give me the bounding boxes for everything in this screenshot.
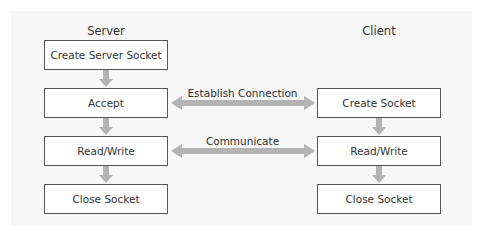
- down-arrow-icon: [371, 118, 387, 136]
- box-label: Read/Write: [77, 145, 135, 157]
- server-accept-box: Accept: [44, 88, 168, 118]
- down-arrow-icon: [371, 166, 387, 184]
- box-label: Close Socket: [72, 193, 139, 205]
- server-close-socket-box: Close Socket: [44, 184, 168, 214]
- client-read-write-box: Read/Write: [317, 136, 441, 166]
- bidirectional-arrow-icon: [170, 144, 316, 158]
- down-arrow-icon: [98, 118, 114, 136]
- client-create-socket-box: Create Socket: [317, 88, 441, 118]
- down-arrow-icon: [98, 166, 114, 184]
- box-label: Create Server Socket: [50, 49, 161, 61]
- box-label: Close Socket: [345, 193, 412, 205]
- server-read-write-box: Read/Write: [44, 136, 168, 166]
- box-label: Create Socket: [342, 97, 415, 109]
- client-close-socket-box: Close Socket: [317, 184, 441, 214]
- box-label: Read/Write: [350, 145, 408, 157]
- server-create-socket-box: Create Server Socket: [44, 40, 168, 70]
- bidirectional-arrow-icon: [170, 96, 316, 110]
- down-arrow-icon: [98, 70, 114, 88]
- server-column-label: Server: [44, 24, 168, 38]
- box-label: Accept: [88, 97, 124, 109]
- client-column-label: Client: [317, 24, 441, 38]
